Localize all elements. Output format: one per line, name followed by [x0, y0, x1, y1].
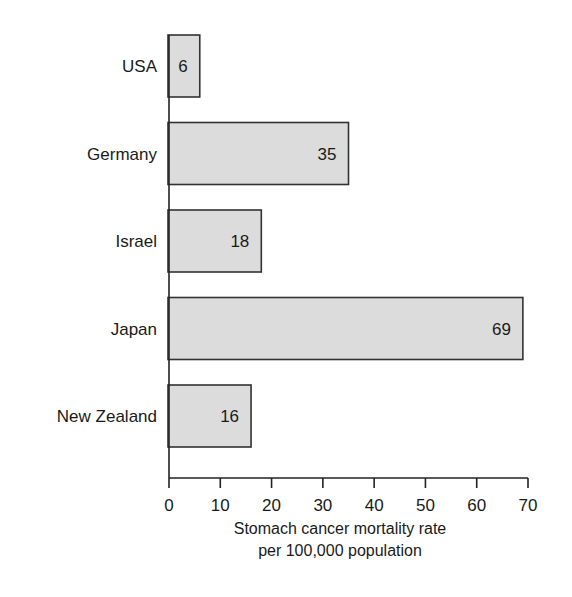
x-tick-label: 0: [164, 496, 173, 515]
x-tick-label: 30: [313, 496, 332, 515]
x-tick-label: 10: [211, 496, 230, 515]
x-axis-ticks: 010203040506070: [164, 478, 537, 515]
category-label: Germany: [87, 145, 157, 164]
x-axis-title-line2: per 100,000 population: [258, 542, 422, 559]
category-label: Israel: [115, 232, 157, 251]
category-label: Japan: [111, 320, 157, 339]
category-label: New Zealand: [57, 407, 157, 426]
bars-group: 635186916: [168, 35, 523, 447]
x-tick-label: 20: [262, 496, 281, 515]
category-label: USA: [122, 57, 158, 76]
bar-chart: 635186916 USAGermanyIsraelJapanNew Zeala…: [0, 0, 572, 597]
x-tick-label: 40: [365, 496, 384, 515]
x-tick-label: 70: [519, 496, 538, 515]
x-axis-title-line1: Stomach cancer mortality rate: [234, 520, 447, 537]
x-tick-label: 60: [467, 496, 486, 515]
value-label: 35: [318, 145, 337, 164]
value-label: 16: [220, 407, 239, 426]
category-labels: USAGermanyIsraelJapanNew Zealand: [57, 57, 158, 426]
x-tick-label: 50: [416, 496, 435, 515]
bar-japan: [168, 298, 523, 360]
value-label: 18: [230, 232, 249, 251]
value-label: 69: [492, 320, 511, 339]
value-label: 6: [178, 57, 187, 76]
